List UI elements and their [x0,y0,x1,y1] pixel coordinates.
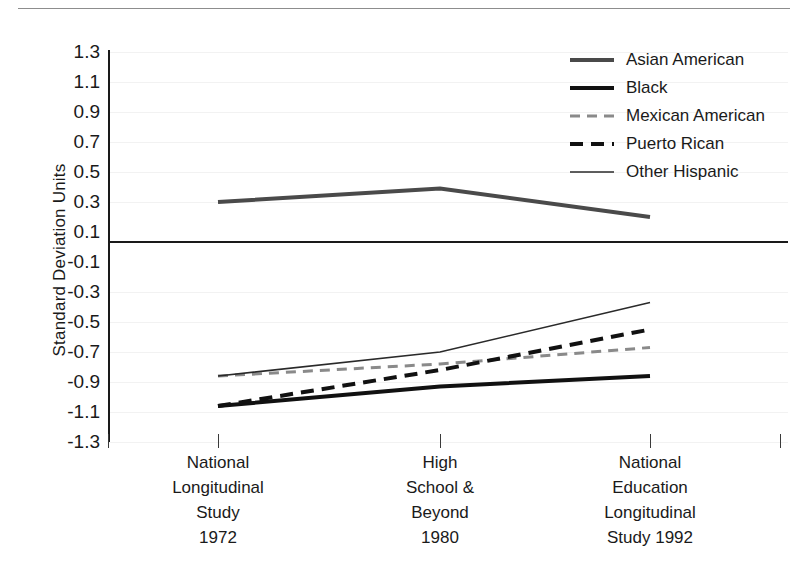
legend-line-swatch [570,53,614,67]
series-line [218,376,650,406]
y-axis-tick-label: 0.9 [54,102,100,121]
x-axis-tick [780,434,781,448]
legend-item[interactable]: Black [570,74,806,102]
legend-label: Other Hispanic [626,162,738,182]
top-divider-rule [18,8,790,9]
legend-swatch-icon [570,53,614,67]
x-axis-label-line: Longitudinal [550,500,750,525]
y-axis-tick-label: -0.9 [54,372,100,391]
x-axis-label-line: School & [340,475,540,500]
legend-item[interactable]: Puerto Rican [570,130,806,158]
x-axis-label-line: National [118,450,318,475]
x-axis-category-label: HighSchool &Beyond1980 [340,450,540,550]
legend-label: Black [626,78,668,98]
x-axis-label-line: Study [118,500,318,525]
zero-reference-line [108,241,788,243]
legend-line-swatch [570,165,614,179]
legend-item[interactable]: Mexican American [570,102,806,130]
y-axis-tick-label: -1.3 [54,432,100,451]
legend-swatch-icon [570,137,614,151]
legend-label: Puerto Rican [626,134,724,154]
y-axis-tick-label: 0.3 [54,192,100,211]
chart-legend: Asian AmericanBlackMexican AmericanPuert… [570,46,806,186]
y-axis-line [108,50,110,442]
gridline [108,352,788,353]
legend-label: Asian American [626,50,744,70]
gridline [108,292,788,293]
gridline [108,442,788,443]
y-axis-tick-label: -0.5 [54,312,100,331]
y-axis-tick-label: 0.5 [54,162,100,181]
x-axis-label-line: National [550,450,750,475]
legend-swatch-icon [570,81,614,95]
gridline [108,202,788,203]
series-line [218,303,650,377]
x-axis-label-line: 1980 [340,525,540,550]
y-axis-tick-label: 1.3 [54,42,100,61]
x-axis-label-line: Education [550,475,750,500]
x-axis-tick [218,434,219,448]
legend-item[interactable]: Other Hispanic [570,158,806,186]
gridline [108,382,788,383]
y-axis-tick-label: -0.1 [54,252,100,271]
legend-line-swatch [570,109,614,123]
y-axis-tick-label: 1.1 [54,72,100,91]
x-axis-category-label: NationalEducationLongitudinalStudy 1992 [550,450,750,550]
x-axis-label-line: Study 1992 [550,525,750,550]
y-axis-tick-label: -1.1 [54,402,100,421]
y-axis-tick-label: 0.1 [54,222,100,241]
y-axis-tick-label: -0.3 [54,282,100,301]
x-axis-label-line: 1972 [118,525,318,550]
x-axis-label-line: High [340,450,540,475]
x-axis-tick [650,434,651,448]
gridline [108,412,788,413]
x-axis-label-line: Beyond [340,500,540,525]
x-axis-category-label: NationalLongitudinalStudy1972 [118,450,318,550]
legend-label: Mexican American [626,106,765,126]
x-axis-label-line: Longitudinal [118,475,318,500]
legend-swatch-icon [570,165,614,179]
legend-item[interactable]: Asian American [570,46,806,74]
x-axis-category-labels: NationalLongitudinalStudy1972HighSchool … [108,450,798,560]
legend-swatch-icon [570,109,614,123]
x-axis-tick [108,434,109,448]
series-line [218,330,650,407]
legend-line-swatch [570,137,614,151]
chart-figure: Standard Deviation Units 1.31.10.90.70.5… [0,0,806,587]
y-axis-tick-labels: 1.31.10.90.70.50.30.1-0.1-0.3-0.5-0.7-0.… [54,38,100,442]
y-axis-tick-label: 0.7 [54,132,100,151]
x-axis-tick [440,434,441,448]
legend-line-swatch [570,81,614,95]
y-axis-tick-label: -0.7 [54,342,100,361]
gridline [108,322,788,323]
